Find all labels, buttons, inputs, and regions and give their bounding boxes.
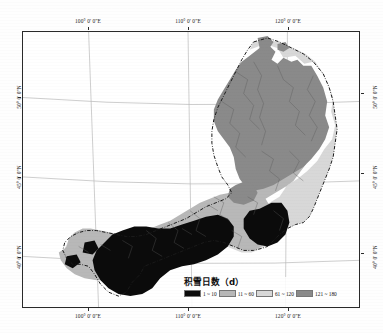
legend-item-1-10[interactable]: 1 ~ 10 (184, 290, 217, 297)
map-canvas (23, 32, 359, 307)
tick-bottom-120 (288, 308, 289, 311)
lat-label-right-50: 50° 0' 0"N (372, 85, 378, 109)
legend-swatch-1-10 (184, 290, 201, 297)
tick-bottom-100 (88, 308, 89, 311)
legend-item-61-120[interactable]: 61 ~ 120 (256, 290, 294, 297)
map-legend: 积雪日数（d） 1 ~ 10 11 ~ 60 61 ~ 120 121 ~ 18… (182, 277, 358, 307)
tick-right-40 (361, 253, 364, 254)
tick-top-120 (288, 27, 289, 30)
tick-bottom-110 (188, 308, 189, 311)
legend-title: 积雪日数（d） (182, 277, 358, 288)
map-frame (22, 31, 360, 308)
tick-top-100 (88, 27, 89, 30)
legend-label-11-60: 11 ~ 60 (238, 291, 254, 297)
figure-page: 积雪日数（d） 1 ~ 10 11 ~ 60 61 ~ 120 121 ~ 18… (0, 0, 383, 333)
lon-label-top-110: 110° 0' 0"E (175, 18, 201, 24)
legend-label-121-180: 121 ~ 180 (315, 291, 337, 297)
lat-label-right-40: 40° 0' 0"N (372, 245, 378, 269)
lon-label-bottom-100: 100° 0' 0"E (75, 313, 101, 319)
tick-left-45 (18, 177, 21, 178)
legend-label-1-10: 1 ~ 10 (203, 291, 217, 297)
lon-label-top-100: 100° 0' 0"E (75, 18, 101, 24)
legend-swatch-121-180 (296, 290, 313, 297)
lon-label-bottom-110: 110° 0' 0"E (175, 313, 201, 319)
legend-label-61-120: 61 ~ 120 (275, 291, 294, 297)
tick-right-45 (361, 173, 364, 174)
legend-swatch-61-120 (256, 290, 273, 297)
legend-item-121-180[interactable]: 121 ~ 180 (296, 290, 337, 297)
tick-top-110 (188, 27, 189, 30)
lon-label-bottom-120: 120° 0' 0"E (275, 313, 301, 319)
legend-item-11-60[interactable]: 11 ~ 60 (219, 290, 254, 297)
legend-items: 1 ~ 10 11 ~ 60 61 ~ 120 121 ~ 180 (182, 290, 358, 297)
legend-swatch-11-60 (219, 290, 236, 297)
tick-left-50 (18, 97, 21, 98)
lon-label-top-120: 120° 0' 0"E (275, 18, 301, 24)
tick-right-50 (361, 93, 364, 94)
lat-label-right-45: 45° 0' 0"N (372, 165, 378, 189)
tick-left-40 (18, 257, 21, 258)
